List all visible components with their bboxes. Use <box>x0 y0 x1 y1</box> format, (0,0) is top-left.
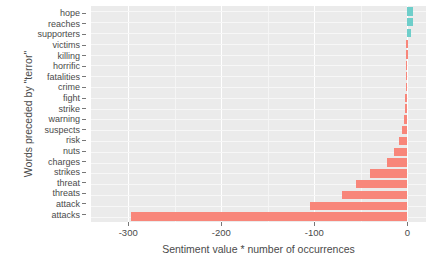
y-axis-tick-label: risk <box>24 135 86 146</box>
bar-row <box>91 72 426 81</box>
y-axis-tick-label: victims <box>24 40 86 51</box>
x-axis-tick-label: -300 <box>119 227 138 238</box>
y-axis-tick-label: strike <box>24 103 86 114</box>
y-axis-tick-text: crime <box>58 82 80 92</box>
y-axis-tick-mark <box>82 151 86 152</box>
y-axis-tick-label: horrific <box>24 61 86 72</box>
y-axis-tick-label: fight <box>24 93 86 104</box>
y-axis-tick-mark <box>82 214 86 215</box>
bar <box>404 115 408 124</box>
bar <box>405 104 408 113</box>
bar-row <box>91 191 426 200</box>
y-axis-tick-mark <box>82 119 86 120</box>
y-axis-tick-mark <box>82 66 86 67</box>
y-axis-tick-label: strikes <box>24 167 86 178</box>
bar-row <box>91 61 426 70</box>
bar <box>399 137 407 146</box>
bar-row <box>91 83 426 92</box>
bar-series <box>91 6 426 222</box>
y-axis-tick-label: attacks <box>24 209 86 220</box>
bar-row <box>91 115 426 124</box>
bar <box>406 50 407 59</box>
y-axis-tick-text: warning <box>48 114 80 124</box>
x-axis-tick-mark <box>221 222 222 226</box>
bar <box>394 148 407 157</box>
y-axis-tick-text: threats <box>52 188 80 198</box>
bar-row <box>91 94 426 103</box>
bar <box>406 83 408 92</box>
bar <box>407 29 411 38</box>
bar <box>370 169 407 178</box>
bar <box>407 18 413 27</box>
bar-row <box>91 169 426 178</box>
y-axis-tick-label: attack <box>24 199 86 210</box>
bar-row <box>91 18 426 27</box>
y-axis-tick-text: supporters <box>37 29 80 39</box>
sentiment-bar-chart: Words preceded by "terror" hopereachessu… <box>0 0 431 272</box>
x-axis-title: Sentiment value * number of occurrences <box>91 243 426 255</box>
bar-row <box>91 158 426 167</box>
y-axis-tick-text: strikes <box>54 167 80 177</box>
bar-row <box>91 40 426 49</box>
bar-row <box>91 137 426 146</box>
bar <box>406 61 408 70</box>
y-axis-tick-mark <box>82 129 86 130</box>
y-axis-tick-text: reaches <box>48 19 80 29</box>
y-axis-tick-text: hope <box>60 8 80 18</box>
y-axis-tick-mark <box>82 193 86 194</box>
y-axis-tick-label: reaches <box>24 19 86 30</box>
bar <box>356 180 407 189</box>
y-axis-tick-mark <box>82 140 86 141</box>
y-axis-tick-label: nuts <box>24 146 86 157</box>
bar-row <box>91 202 426 211</box>
y-axis-tick-mark <box>82 98 86 99</box>
y-axis-tick-mark <box>82 108 86 109</box>
y-axis-tick-label: supporters <box>24 29 86 40</box>
y-axis-tick-mark <box>82 45 86 46</box>
y-axis-tick-text: victims <box>53 40 81 50</box>
y-axis-tick-text: suspects <box>44 125 80 135</box>
y-axis-tick-mark <box>82 161 86 162</box>
bar-row <box>91 148 426 157</box>
y-axis-tick-mark <box>82 76 86 77</box>
y-axis-tick-mark <box>82 23 86 24</box>
y-axis-tick-mark <box>82 203 86 204</box>
y-axis-tick-label: charges <box>24 156 86 167</box>
y-axis-tick-text: fatalities <box>47 72 80 82</box>
x-axis-tick-labels: -300-200-1000 <box>91 227 426 241</box>
y-axis-tick-label: warning <box>24 114 86 125</box>
y-axis-tick-text: threat <box>57 178 80 188</box>
bar-row <box>91 212 426 221</box>
y-axis-tick-label: suspects <box>24 125 86 136</box>
y-axis-tick-text: killing <box>57 51 80 61</box>
y-axis-tick-text: strike <box>58 104 80 114</box>
bar-row <box>91 104 426 113</box>
bar-row <box>91 29 426 38</box>
y-axis-tick-text: attacks <box>51 210 80 220</box>
x-axis-tick-label: -100 <box>305 227 324 238</box>
y-axis-tick-mark <box>82 172 86 173</box>
y-axis-tick-label: hope <box>24 8 86 19</box>
bar-row <box>91 126 426 135</box>
bar <box>406 40 407 49</box>
bar <box>342 191 407 200</box>
x-axis-tick-mark <box>314 222 315 226</box>
y-axis-tick-text: nuts <box>63 146 80 156</box>
y-axis-tick-mark <box>82 13 86 14</box>
y-axis-tick-mark <box>82 55 86 56</box>
y-axis-tick-text: charges <box>48 157 80 167</box>
y-axis-tick-label: killing <box>24 50 86 61</box>
plot-panel <box>91 6 426 222</box>
y-axis-tick-mark <box>82 87 86 88</box>
bar-row <box>91 7 426 16</box>
y-axis-tick-label: threat <box>24 178 86 189</box>
y-axis-tick-label: fatalities <box>24 72 86 83</box>
bar <box>402 126 408 135</box>
y-axis-tick-label: threats <box>24 188 86 199</box>
y-axis-tick-text: horrific <box>53 61 80 71</box>
bar-row <box>91 180 426 189</box>
y-axis-tick-text: fight <box>63 93 80 103</box>
y-axis-tick-text: risk <box>66 135 80 145</box>
bar <box>406 72 408 81</box>
y-axis-tick-label: crime <box>24 82 86 93</box>
